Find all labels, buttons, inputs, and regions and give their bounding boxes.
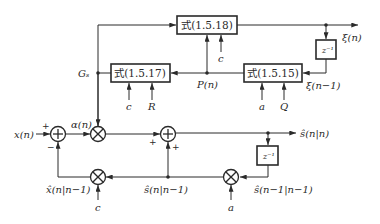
label-x-n: x(n)	[14, 129, 34, 140]
kalman-filter-block-diagram: 式(1.5.18) ξ(n) z⁻¹ ξ(n−1) 式(1.5.15) a Q …	[0, 0, 380, 224]
label-xi-n-1: ξ(n−1)	[306, 80, 341, 91]
sum2-plus-left-sign: +	[149, 137, 157, 147]
label-s-n-1-n-1: ŝ(n−1|n−1)	[254, 184, 313, 196]
label-x-hat: x̂(n|n−1)	[46, 184, 91, 196]
label-q: Q	[280, 101, 288, 112]
label-gs: Gₛ	[78, 68, 89, 79]
delay-block-bottom: z⁻¹	[257, 146, 278, 165]
delay-bottom-label: z⁻¹	[262, 152, 275, 161]
block-eq-1515-label: 式(1.5.15)	[247, 67, 299, 79]
label-c-bottom: c	[95, 202, 101, 213]
block-eq-1517-label: 式(1.5.17)	[114, 67, 166, 79]
sum1-plus-sign: +	[42, 121, 50, 131]
summing-junction-1	[51, 127, 66, 142]
xi-prev-line	[303, 59, 326, 73]
obs-prediction-feedback-line	[58, 142, 91, 177]
delay-top-label: z⁻¹	[321, 46, 334, 55]
label-c-top: c	[218, 53, 224, 64]
multiplier-gain	[91, 127, 106, 142]
label-a-mid: a	[259, 101, 265, 112]
estimate-prev-line	[240, 165, 268, 177]
block-eq-1517: 式(1.5.17)	[111, 64, 170, 82]
block-eq-1518-label: 式(1.5.18)	[181, 19, 233, 31]
label-s-n-n: ŝ(n|n)	[300, 128, 329, 140]
sum2-plus-bottom-sign: +	[172, 142, 180, 152]
sum1-minus-sign: −	[47, 142, 55, 152]
label-p-n: P(n)	[196, 79, 218, 90]
label-c-mid: c	[126, 101, 132, 112]
label-r: R	[147, 101, 156, 112]
label-alpha-n: α(n)	[71, 119, 92, 130]
label-s-n-n-1: ŝ(n|n−1)	[144, 184, 188, 196]
label-a-bottom: a	[228, 202, 234, 213]
summing-junction-2	[161, 127, 176, 142]
label-xi-n: ξ(n)	[342, 32, 362, 43]
delay-block-top: z⁻¹	[316, 40, 336, 59]
multiplier-c	[91, 170, 106, 185]
block-eq-1515: 式(1.5.15)	[244, 64, 302, 82]
multiplier-a	[224, 170, 239, 185]
block-eq-1518: 式(1.5.18)	[177, 16, 237, 34]
